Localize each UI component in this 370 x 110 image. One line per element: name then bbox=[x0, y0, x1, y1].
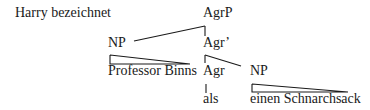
node-spec-np: NP bbox=[108, 36, 126, 50]
branch-agrp-to-spec-np bbox=[134, 26, 205, 41]
sentence-prefix: Harry bezeichnet bbox=[15, 6, 111, 20]
terminal-einen-schnarchsack: einen Schnarchsack bbox=[250, 92, 361, 106]
node-agr-bar: Agr’ bbox=[203, 36, 230, 50]
node-comp-np: NP bbox=[250, 64, 268, 78]
node-agr-head: Agr bbox=[203, 64, 225, 78]
terminal-als: als bbox=[203, 92, 219, 106]
syntax-tree-diagram: Harry bezeichnet AgrP NP Agr’ Professor … bbox=[0, 0, 370, 110]
node-agrp: AgrP bbox=[203, 6, 233, 20]
terminal-professor-binns: Professor Binns bbox=[108, 64, 197, 78]
